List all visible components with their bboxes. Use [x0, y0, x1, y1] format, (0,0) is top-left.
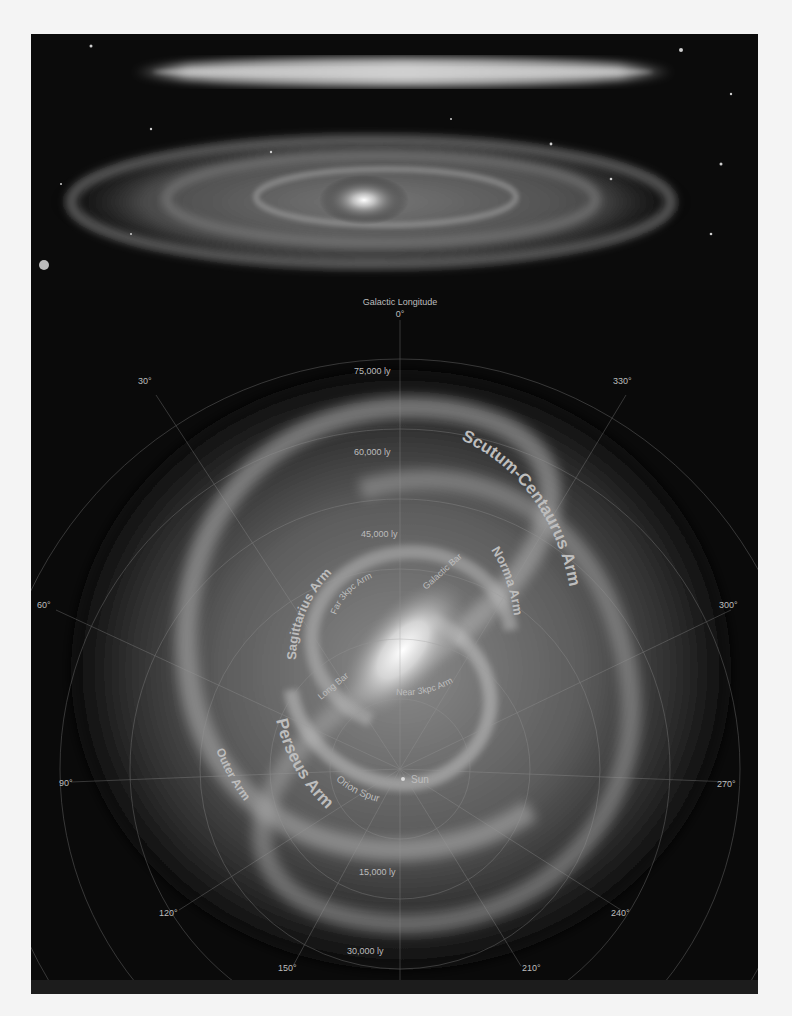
longitude-label: 60°	[37, 600, 51, 610]
galaxy-core	[319, 175, 409, 225]
longitude-label: 150°	[278, 963, 297, 973]
map-canvas: Galactic Longitude 0° 30° 330° 60° 300° …	[31, 290, 758, 994]
longitude-label: 30°	[138, 376, 152, 386]
galaxy-photo	[31, 34, 758, 290]
galaxy-photo-panel	[31, 34, 758, 290]
distance-label: 75,000 ly	[354, 366, 391, 376]
map-title: Galactic Longitude	[363, 297, 438, 307]
longitude-label: 300°	[719, 600, 738, 610]
tilted-galaxy	[46, 130, 696, 274]
longitude-label: 120°	[159, 908, 178, 918]
longitude-label: 270°	[717, 779, 736, 789]
longitude-label: 210°	[522, 963, 541, 973]
longitude-label: 240°	[611, 908, 630, 918]
sun-label: Sun	[411, 774, 429, 785]
distance-label: 30,000 ly	[347, 946, 384, 956]
map-footer-band	[31, 980, 758, 994]
distance-label: 60,000 ly	[354, 447, 391, 457]
longitude-label: 90°	[59, 778, 73, 788]
milky-way-map: Galactic Longitude 0° 30° 330° 60° 300° …	[31, 290, 758, 994]
galaxy-disk	[71, 370, 731, 970]
distance-label: 45,000 ly	[361, 529, 398, 539]
sun-icon	[401, 777, 405, 781]
longitude-label: 330°	[613, 376, 632, 386]
longitude-label: 0°	[396, 309, 405, 319]
distance-label: 15,000 ly	[359, 867, 396, 877]
